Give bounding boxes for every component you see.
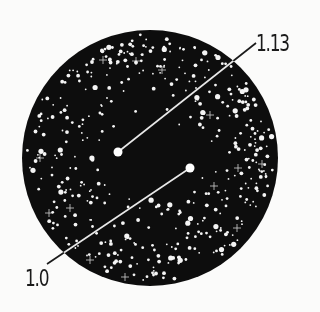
star (34, 130, 38, 134)
star (51, 174, 54, 177)
star (142, 70, 144, 72)
star (208, 69, 210, 71)
star (104, 184, 106, 186)
star (219, 213, 221, 215)
star (266, 145, 268, 147)
star (174, 247, 177, 250)
star (232, 99, 234, 101)
star (29, 167, 31, 169)
star (230, 65, 233, 68)
star (265, 173, 267, 175)
star (62, 130, 64, 132)
star (74, 156, 76, 158)
star (80, 185, 82, 187)
star (52, 104, 54, 106)
star (197, 230, 200, 233)
star (234, 141, 238, 145)
star (216, 117, 219, 120)
star (227, 87, 231, 91)
star (42, 133, 46, 137)
star (219, 229, 222, 232)
star (129, 237, 132, 240)
star (51, 167, 53, 169)
star (105, 241, 107, 243)
star (188, 246, 192, 250)
star (60, 97, 62, 99)
star (139, 207, 141, 209)
star (128, 264, 132, 268)
star (120, 249, 123, 252)
star (140, 59, 143, 62)
star (269, 134, 274, 139)
star (263, 170, 265, 172)
star (182, 59, 184, 61)
star (89, 201, 93, 205)
star (85, 63, 88, 66)
star (151, 46, 154, 49)
star (228, 151, 231, 154)
star (244, 95, 246, 97)
star (255, 161, 257, 163)
star (160, 213, 163, 216)
star (266, 185, 269, 188)
star (145, 46, 147, 48)
star (63, 199, 66, 202)
star (200, 110, 205, 115)
star (89, 219, 91, 221)
star (252, 201, 254, 203)
star (202, 52, 204, 54)
star (163, 66, 165, 68)
star (97, 182, 101, 186)
star (202, 126, 205, 129)
dark-disk (22, 30, 278, 286)
star (142, 44, 145, 47)
star (239, 132, 242, 135)
star (224, 62, 227, 65)
star (111, 46, 114, 49)
star (235, 216, 239, 220)
star (195, 80, 197, 82)
star (162, 276, 165, 279)
star (87, 200, 89, 202)
star (187, 232, 190, 235)
star (85, 88, 87, 90)
star (121, 221, 125, 225)
star (249, 119, 252, 122)
star (120, 81, 123, 84)
star (255, 142, 257, 144)
star (250, 136, 252, 138)
star (163, 58, 166, 61)
star (61, 181, 64, 184)
star (209, 235, 212, 238)
star (108, 58, 112, 62)
star (146, 275, 149, 278)
star (139, 72, 141, 74)
star (164, 78, 166, 80)
star (67, 243, 70, 246)
label-1-13: 1.13 (256, 32, 289, 55)
star (106, 74, 108, 76)
star (235, 114, 239, 118)
star (96, 169, 99, 172)
star (176, 243, 179, 246)
star (215, 171, 217, 173)
star (109, 67, 111, 69)
star (157, 260, 161, 264)
star (240, 171, 244, 175)
star (226, 231, 229, 234)
star (265, 175, 268, 178)
star (226, 105, 229, 108)
star (249, 204, 251, 206)
star (71, 194, 74, 197)
star (65, 116, 69, 120)
star (208, 90, 211, 93)
star (131, 256, 134, 259)
star (262, 193, 266, 197)
star (173, 277, 177, 281)
star (53, 200, 56, 203)
star (139, 33, 142, 36)
star (254, 138, 256, 140)
star (107, 253, 111, 257)
star (110, 266, 113, 269)
star (95, 256, 97, 258)
